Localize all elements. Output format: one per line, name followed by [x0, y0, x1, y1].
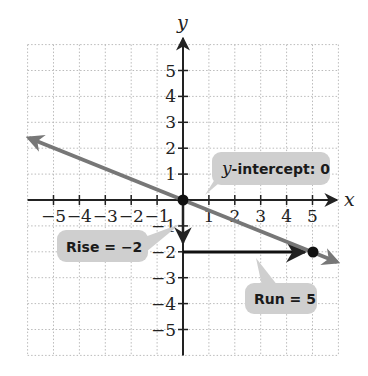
- chart-svg: −5−4−3−2−112345−5−4−3−2−112345 y-interce…: [0, 0, 368, 376]
- y-tick-label: −5: [151, 320, 176, 340]
- x-tick-label: 5: [307, 206, 318, 226]
- y-tick-label: −4: [151, 294, 176, 314]
- x-tick-label: −3: [93, 206, 118, 226]
- x-tick-label: 3: [255, 206, 266, 226]
- y-axis-label: y: [176, 11, 188, 33]
- callout-run-text: Run = 5: [254, 291, 316, 307]
- point-5-neg2: [308, 247, 319, 258]
- callout-run: Run = 5: [245, 258, 317, 314]
- callout-y-intercept: y-intercept: 0: [205, 152, 330, 195]
- y-tick-label: 2: [165, 138, 176, 158]
- point-origin: [178, 195, 189, 206]
- y-tick-label: 3: [165, 112, 176, 132]
- callouts: y-intercept: 0 Rise = −2 Run = 5: [57, 152, 330, 314]
- x-axis-label: x: [344, 188, 355, 210]
- y-tick-label: 4: [165, 86, 176, 106]
- x-tick-label: −4: [67, 206, 92, 226]
- y-tick-label: −3: [151, 268, 176, 288]
- slope-chart: −5−4−3−2−112345−5−4−3−2−112345 y-interce…: [0, 0, 368, 376]
- x-tick-label: −5: [41, 206, 66, 226]
- callout-y-intercept-text: y-intercept: 0: [221, 158, 330, 178]
- callout-rise-text: Rise = −2: [66, 239, 142, 255]
- y-tick-label: 1: [165, 164, 176, 184]
- x-tick-label: 4: [281, 206, 292, 226]
- x-tick-label: −2: [119, 206, 144, 226]
- y-tick-label: 5: [165, 61, 176, 81]
